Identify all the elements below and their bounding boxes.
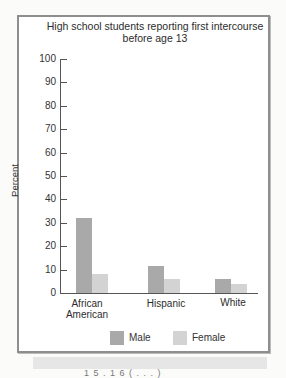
y-tick — [60, 246, 67, 247]
y-tick-label: 0 — [34, 287, 56, 298]
legend-label-female: Female — [192, 332, 225, 343]
category-line: American — [62, 309, 112, 320]
y-tick — [60, 176, 67, 177]
y-tick — [60, 293, 67, 294]
x-axis — [60, 293, 258, 294]
y-axis-label: Percent — [9, 164, 20, 197]
bar-male — [76, 218, 92, 293]
category-label-african-american: African American — [62, 298, 112, 320]
y-tick-label: 60 — [34, 147, 56, 158]
y-tick — [60, 82, 67, 83]
y-tick-label: 90 — [34, 76, 56, 87]
bar-male — [215, 279, 231, 293]
chart-title: High school students reporting first int… — [40, 20, 270, 44]
y-tick — [60, 129, 67, 130]
bar-male — [148, 266, 164, 293]
y-tick-label: 70 — [34, 123, 56, 134]
bar-female — [164, 279, 180, 293]
y-tick-label: 20 — [34, 240, 56, 251]
y-tick — [60, 59, 67, 60]
y-tick — [60, 199, 67, 200]
category-label-white: White — [208, 297, 258, 308]
category-line: African — [62, 298, 112, 309]
y-tick — [60, 270, 67, 271]
title-line-1: High school students reporting first int… — [40, 20, 270, 32]
y-tick-label: 100 — [34, 53, 56, 64]
bar-female — [231, 284, 247, 293]
bar-female — [92, 274, 108, 293]
y-tick — [60, 106, 67, 107]
category-label-hispanic: Hispanic — [138, 298, 194, 309]
y-tick — [60, 223, 67, 224]
legend-swatch-male — [110, 331, 124, 345]
y-tick-label: 40 — [34, 193, 56, 204]
category-line: White — [208, 297, 258, 308]
caption-partial: 1 5 . 1 6 ( . . . ) — [84, 368, 162, 378]
category-line: Hispanic — [138, 298, 194, 309]
y-tick-label: 50 — [34, 170, 56, 181]
legend-label-male: Male — [129, 332, 151, 343]
y-tick-label: 10 — [34, 264, 56, 275]
y-tick-label: 80 — [34, 100, 56, 111]
y-tick — [60, 153, 67, 154]
legend-swatch-female — [173, 331, 187, 345]
title-line-2: before age 13 — [40, 32, 270, 44]
y-tick-label: 30 — [34, 217, 56, 228]
